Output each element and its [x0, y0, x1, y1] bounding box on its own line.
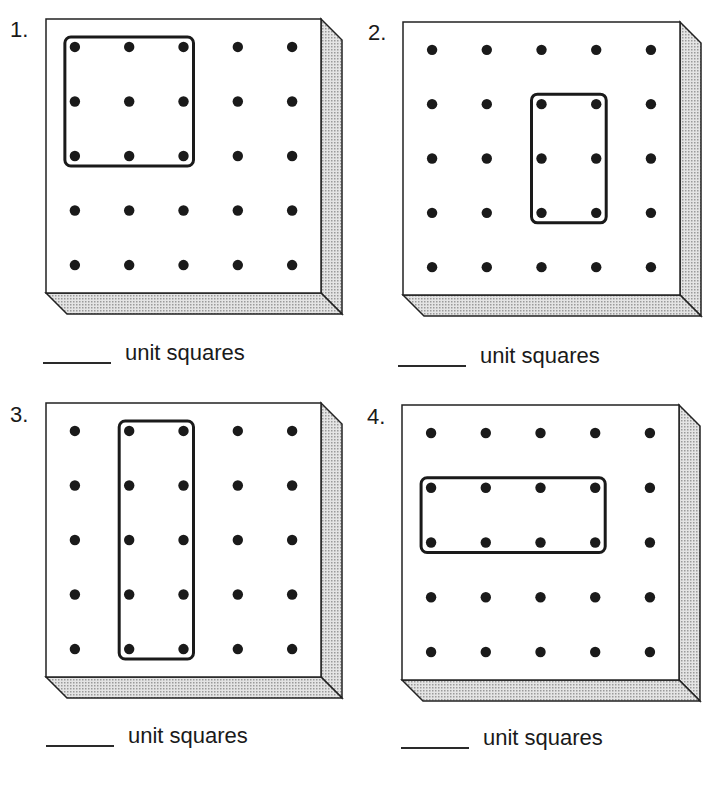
answer-row: unit squares: [43, 340, 303, 370]
peg-icon: [535, 483, 545, 493]
board-side-edge: [321, 403, 342, 698]
peg-icon: [178, 42, 188, 52]
peg-icon: [590, 537, 600, 547]
peg-icon: [590, 647, 600, 657]
peg-icon: [646, 45, 656, 55]
answer-row: unit squares: [401, 725, 661, 755]
peg-icon: [70, 535, 80, 545]
answer-blank[interactable]: [398, 365, 466, 367]
peg-icon: [591, 208, 601, 218]
peg-icon: [178, 260, 188, 270]
peg-icon: [233, 260, 243, 270]
peg-icon: [287, 426, 297, 436]
peg-icon: [590, 592, 600, 602]
peg-icon: [481, 592, 491, 602]
answer-blank[interactable]: [401, 747, 469, 749]
peg-icon: [645, 592, 655, 602]
peg-icon: [287, 260, 297, 270]
peg-icon: [178, 535, 188, 545]
peg-icon: [591, 45, 601, 55]
geoboard: [46, 403, 321, 677]
peg-icon: [124, 151, 134, 161]
peg-icon: [427, 45, 437, 55]
peg-icon: [535, 592, 545, 602]
peg-icon: [124, 205, 134, 215]
peg-icon: [646, 262, 656, 272]
board-side-edge: [321, 19, 342, 314]
peg-icon: [427, 99, 437, 109]
answer-blank[interactable]: [43, 362, 111, 364]
peg-icon: [70, 426, 80, 436]
peg-icon: [70, 260, 80, 270]
peg-icon: [287, 644, 297, 654]
answer-blank[interactable]: [46, 745, 114, 747]
peg-icon: [70, 151, 80, 161]
peg-icon: [124, 260, 134, 270]
peg-icon: [178, 96, 188, 106]
peg-icon: [536, 262, 546, 272]
board-bottom-edge: [46, 677, 342, 698]
peg-icon: [124, 480, 134, 490]
peg-icon: [233, 205, 243, 215]
peg-icon: [124, 589, 134, 599]
peg-icon: [645, 647, 655, 657]
peg-icon: [482, 208, 492, 218]
peg-icon: [178, 589, 188, 599]
peg-icon: [535, 647, 545, 657]
peg-icon: [646, 208, 656, 218]
peg-icon: [536, 153, 546, 163]
peg-icon: [426, 483, 436, 493]
answer-label: unit squares: [480, 343, 600, 369]
peg-icon: [426, 428, 436, 438]
peg-icon: [124, 535, 134, 545]
peg-icon: [70, 644, 80, 654]
peg-icon: [427, 262, 437, 272]
peg-icon: [124, 42, 134, 52]
peg-icon: [645, 428, 655, 438]
peg-icon: [233, 480, 243, 490]
board-side-edge: [679, 405, 700, 701]
board-bottom-edge: [46, 293, 342, 314]
peg-icon: [233, 535, 243, 545]
peg-icon: [233, 589, 243, 599]
peg-icon: [287, 42, 297, 52]
peg-icon: [233, 426, 243, 436]
peg-icon: [124, 96, 134, 106]
peg-icon: [646, 153, 656, 163]
peg-icon: [591, 262, 601, 272]
peg-icon: [70, 42, 80, 52]
peg-icon: [427, 208, 437, 218]
peg-icon: [287, 151, 297, 161]
peg-icon: [482, 262, 492, 272]
peg-icon: [287, 589, 297, 599]
peg-icon: [178, 480, 188, 490]
peg-icon: [591, 99, 601, 109]
peg-icon: [590, 483, 600, 493]
peg-icon: [536, 45, 546, 55]
peg-icon: [287, 205, 297, 215]
peg-icon: [178, 644, 188, 654]
answer-label: unit squares: [125, 340, 245, 366]
geoboard-drawing: [46, 19, 344, 316]
geoboard: [46, 19, 321, 293]
peg-icon: [535, 428, 545, 438]
peg-icon: [233, 644, 243, 654]
problem-number: 3.: [10, 404, 28, 426]
peg-icon: [481, 647, 491, 657]
answer-row: unit squares: [46, 723, 306, 753]
peg-icon: [178, 151, 188, 161]
peg-icon: [233, 96, 243, 106]
peg-icon: [536, 99, 546, 109]
geoboard-drawing: [46, 403, 344, 700]
peg-icon: [591, 153, 601, 163]
peg-icon: [426, 647, 436, 657]
peg-icon: [646, 99, 656, 109]
peg-icon: [645, 483, 655, 493]
peg-icon: [481, 428, 491, 438]
geoboard-drawing: [402, 405, 702, 703]
peg-icon: [287, 480, 297, 490]
geoboard: [403, 22, 680, 295]
answer-label: unit squares: [128, 723, 248, 749]
peg-icon: [482, 45, 492, 55]
peg-icon: [70, 205, 80, 215]
